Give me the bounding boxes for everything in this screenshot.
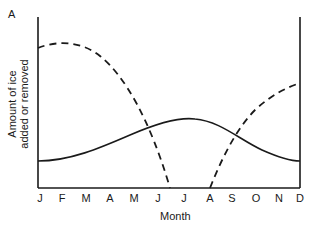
y-axis-label-line2: added or removed (18, 59, 30, 148)
x-tick-nov: N (269, 192, 289, 204)
y-axis-label: Amount of ice added or removed (6, 59, 30, 148)
x-tick-sep: S (222, 192, 242, 204)
dashed-curve-left (38, 43, 170, 188)
dashed-curve-right (210, 83, 300, 188)
x-tick-oct: O (246, 192, 266, 204)
x-tick-jan: J (30, 192, 50, 204)
x-tick-may: M (124, 192, 144, 204)
x-tick-apr: A (100, 192, 120, 204)
x-tick-aug: A (200, 192, 220, 204)
x-tick-dec: D (290, 192, 310, 204)
x-tick-feb: F (52, 192, 72, 204)
x-axis-label: Month (160, 210, 191, 222)
solid-curve (38, 119, 300, 161)
y-axis-marker: A (8, 8, 15, 20)
x-tick-mar: M (76, 192, 96, 204)
x-tick-jul: J (174, 192, 194, 204)
y-axis-label-line1: Amount of ice (6, 59, 18, 148)
x-tick-jun: J (148, 192, 168, 204)
